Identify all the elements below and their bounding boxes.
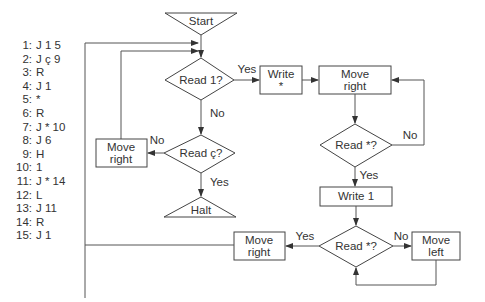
yes-label: Yes xyxy=(210,176,229,188)
no-label: No xyxy=(394,230,409,242)
svg-text:Write 1: Write 1 xyxy=(338,190,374,202)
decision-read-star-bottom: Read *? xyxy=(319,226,393,267)
start-terminal: Start xyxy=(165,13,237,35)
svg-text:right: right xyxy=(110,153,133,165)
decision-read-c: Read ç? xyxy=(164,135,235,173)
svg-text:Read *?: Read *? xyxy=(335,139,377,151)
halt-terminal: Halt xyxy=(164,197,236,217)
flowchart: Start Read 1? Yes Write * Move right Rea… xyxy=(0,0,485,302)
no-label: No xyxy=(150,134,165,146)
decision-read-star-top: Read *? xyxy=(320,124,392,167)
yes-label: Yes xyxy=(296,230,315,242)
write-1-box: Write 1 xyxy=(320,187,392,206)
loop-back-line-left xyxy=(356,260,436,285)
no-label: No xyxy=(210,107,225,119)
svg-text:Start: Start xyxy=(189,15,214,27)
svg-text:Halt: Halt xyxy=(191,204,212,216)
svg-text:Read ç?: Read ç? xyxy=(180,147,223,159)
svg-text:right: right xyxy=(248,246,271,258)
move-right-bottom-box: Move right xyxy=(234,232,285,260)
yes-label: Yes xyxy=(238,63,257,75)
decision-read-1: Read 1? xyxy=(165,58,234,100)
svg-text:Write: Write xyxy=(268,68,295,80)
svg-text:Move: Move xyxy=(341,68,369,80)
svg-text:Read 1?: Read 1? xyxy=(179,74,222,86)
no-label: No xyxy=(403,129,418,141)
move-left-box: Move left xyxy=(412,232,460,260)
move-right-left-box: Move right xyxy=(96,139,147,167)
svg-text:right: right xyxy=(344,80,367,92)
svg-text:*: * xyxy=(279,80,284,92)
yes-label: Yes xyxy=(360,169,379,181)
svg-text:Move: Move xyxy=(245,234,273,246)
move-right-top-box: Move right xyxy=(319,66,391,94)
svg-text:Move: Move xyxy=(422,234,450,246)
write-star-box: Write * xyxy=(260,66,302,94)
svg-text:Read *?: Read *? xyxy=(335,240,377,252)
svg-text:Move: Move xyxy=(107,141,135,153)
svg-text:left: left xyxy=(428,246,444,258)
